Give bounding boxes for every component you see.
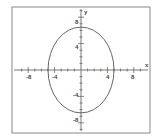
- x-tick-label: -4: [52, 74, 58, 80]
- y-tick-label: -8: [73, 117, 79, 123]
- y-tick-label: -4: [73, 92, 79, 98]
- x-tick-label: -8: [26, 74, 32, 80]
- ellipse-graph: x y -8 -4 4 8 8 4 -4 -8: [0, 0, 157, 140]
